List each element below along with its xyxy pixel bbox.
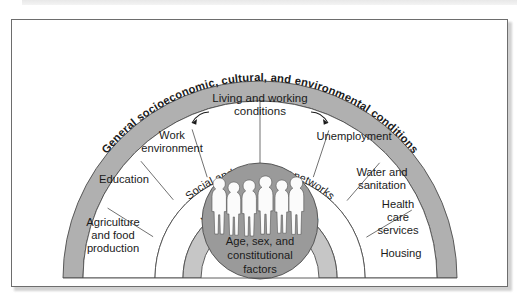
rainbow-model-svg: General socioeconomic, cultural, and env… — [12, 20, 507, 286]
svg-text:factors: factors — [243, 263, 277, 275]
living-working-label-line2: conditions — [234, 105, 286, 117]
svg-text:care: care — [387, 211, 409, 223]
svg-text:Water and: Water and — [356, 166, 407, 178]
segment-housing: Housing — [380, 247, 421, 259]
segment-education: Education — [99, 173, 149, 185]
svg-text:Health: Health — [382, 198, 414, 210]
svg-text:sanitation: sanitation — [358, 179, 406, 191]
svg-text:production: production — [87, 242, 139, 254]
svg-text:Work: Work — [159, 129, 185, 141]
svg-text:Agriculture: Agriculture — [86, 216, 139, 228]
figure-frame: General socioeconomic, cultural, and env… — [11, 19, 508, 287]
segment-unemployment: Unemployment — [316, 130, 392, 142]
svg-text:Housing: Housing — [380, 247, 421, 259]
rainbow-model-figure: General socioeconomic, cultural, and env… — [12, 20, 507, 286]
svg-text:Education: Education — [99, 173, 149, 185]
svg-text:and food: and food — [91, 229, 135, 241]
svg-text:Unemployment: Unemployment — [316, 130, 392, 142]
living-working-label-line1: Living and working — [212, 92, 307, 104]
segment-agriculture: Agriculture and food production — [86, 216, 139, 254]
svg-text:services: services — [377, 224, 418, 236]
page-top-strip — [22, 0, 517, 5]
figure-stage: General socioeconomic, cultural, and env… — [0, 0, 523, 301]
svg-text:Age, sex, and: Age, sex, and — [226, 235, 294, 247]
segment-water-and-sanitation: Water and sanitation — [356, 166, 407, 191]
core-constitutional-factors: Age, sex, and constitutional factors — [202, 163, 318, 279]
svg-text:environment: environment — [141, 142, 203, 154]
svg-text:constitutional: constitutional — [227, 249, 292, 261]
